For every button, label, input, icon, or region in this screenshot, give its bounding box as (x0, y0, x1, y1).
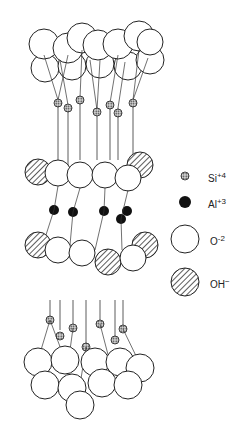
octahedral-upper-anions (25, 152, 153, 191)
octahedral-aluminum-layer (49, 205, 132, 224)
legend-label-o: O-2 (210, 234, 225, 247)
legend-label-al: Al+3 (208, 197, 226, 210)
bottom-oxygen-layer (24, 346, 154, 419)
legend-label-si: Si+4 (208, 171, 226, 184)
clay-structure-diagram (0, 0, 252, 436)
hydroxyl-icon (171, 268, 199, 296)
octahedral-lower-anions (25, 232, 158, 275)
aluminum-atom-icon (179, 196, 191, 208)
legend-label-oh: OH− (210, 277, 230, 290)
legend (171, 172, 199, 296)
oxygen-atom-icon (171, 225, 199, 253)
silicon-atom-icon (181, 172, 189, 180)
